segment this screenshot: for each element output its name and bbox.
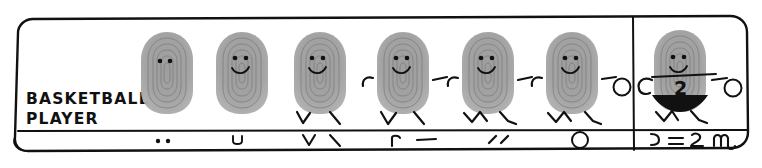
final-cell-divider (633, 17, 634, 150)
strip-divider (18, 130, 747, 131)
jersey-number: 2 (674, 77, 687, 99)
thumbprint-shape (141, 32, 193, 114)
thumbprint-tutorial-sheet: BASKETBALL PLAYER (0, 0, 762, 168)
tutorial-canvas: BASKETBALL PLAYER (0, 0, 762, 168)
title-line-2: PLAYER (26, 110, 99, 128)
step-2-figure (216, 32, 268, 114)
step-1-figure (141, 32, 193, 114)
title-line-1: BASKETBALL (26, 90, 150, 108)
